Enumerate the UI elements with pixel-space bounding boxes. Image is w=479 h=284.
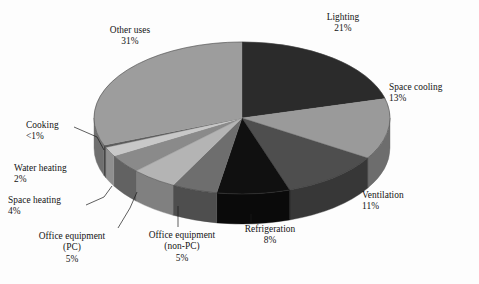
slice-label-other-uses-percent: 31%	[78, 36, 182, 47]
slice-label-cooking-percent: <1%	[26, 131, 92, 142]
slice-label-ventilation-percent: 11%	[362, 201, 446, 212]
slice-label-cooking: Cooking <1%	[26, 120, 92, 143]
slice-label-water-heating-name: Water heating	[14, 163, 110, 174]
slice-label-office-equipment-pc-percent: 5%	[18, 254, 126, 265]
slice-label-ventilation-name: Ventilation	[362, 190, 446, 201]
slice-label-other-uses: Other uses 31%	[78, 25, 182, 48]
slice-label-lighting-percent: 21%	[298, 23, 388, 34]
pie-chart-figure: Lighting 21% Space cooling 13% Ventilati…	[0, 0, 479, 284]
slice-label-space-cooling-name: Space cooling	[389, 82, 477, 93]
slice-label-space-cooling: Space cooling 13%	[389, 82, 477, 105]
slice-label-office-equipment-non-pc: Office equipment (non-PC) 5%	[128, 230, 236, 264]
slice-label-ventilation: Ventilation 11%	[362, 190, 446, 213]
slice-label-water-heating-percent: 2%	[14, 174, 110, 185]
slice-label-office-equipment-pc: Office equipment (PC) 5%	[18, 231, 126, 265]
pie-top-faces	[94, 42, 390, 194]
slice-label-space-heating: Space heating 4%	[8, 195, 108, 218]
slice-label-office-equipment-non-pc-percent: 5%	[128, 253, 236, 264]
slice-label-water-heating: Water heating 2%	[14, 163, 110, 186]
slice-label-space-heating-name: Space heating	[8, 195, 108, 206]
slice-label-lighting: Lighting 21%	[298, 12, 388, 35]
slice-label-lighting-name: Lighting	[298, 12, 388, 23]
slice-label-space-heating-percent: 4%	[8, 206, 108, 217]
slice-label-other-uses-name: Other uses	[78, 25, 182, 36]
slice-label-office-equipment-pc-name: Office equipment	[18, 231, 126, 242]
slice-label-office-equipment-non-pc-name2: (non-PC)	[128, 241, 236, 252]
slice-label-office-equipment-pc-name2: (PC)	[18, 242, 126, 253]
slice-label-space-cooling-percent: 13%	[389, 93, 477, 104]
slice-label-cooking-name: Cooking	[26, 120, 92, 131]
pie-side-refrigeration	[217, 190, 290, 224]
slice-label-office-equipment-non-pc-name: Office equipment	[128, 230, 236, 241]
